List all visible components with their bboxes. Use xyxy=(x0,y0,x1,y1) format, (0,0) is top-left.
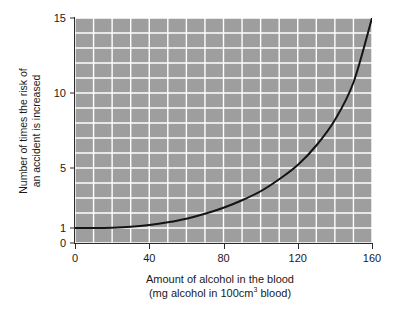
x-tick-mark xyxy=(372,244,373,249)
y-tick-label: 15 xyxy=(54,13,66,24)
x-tick-label: 120 xyxy=(289,252,307,264)
y-tick-label: 1 xyxy=(60,223,66,234)
y-tick-mark xyxy=(70,228,75,229)
y-tick-label: 0 xyxy=(60,238,66,249)
x-tick-mark xyxy=(149,244,150,249)
x-tick-label: 160 xyxy=(363,252,381,264)
risk-curve xyxy=(75,18,372,243)
risk-vs-alcohol-chart: Number of times the risk of an accident … xyxy=(0,0,397,317)
y-tick-mark xyxy=(70,93,75,94)
x-axis-title-line2-post: blood) xyxy=(257,287,291,299)
y-tick-mark xyxy=(70,18,75,19)
y-tick-mark xyxy=(70,168,75,169)
x-axis-title-line1: Amount of alcohol in the blood xyxy=(146,273,294,285)
y-axis-title-line1: Number of times the risk of xyxy=(17,68,29,193)
x-axis-title-line2-pre: (mg alcohol in 100cm xyxy=(149,287,254,299)
x-axis-title: Amount of alcohol in the blood (mg alcoh… xyxy=(60,272,380,300)
x-tick-label: 0 xyxy=(72,252,78,264)
x-tick-mark xyxy=(224,244,225,249)
x-tick-label: 80 xyxy=(217,252,229,264)
y-tick-label: 10 xyxy=(54,88,66,99)
x-axis-title-line2: (mg alcohol in 100cm3 blood) xyxy=(60,286,380,300)
x-tick-mark xyxy=(298,244,299,249)
y-axis-line xyxy=(74,17,75,244)
x-tick-mark xyxy=(75,244,76,249)
y-tick-label: 5 xyxy=(60,163,66,174)
plot-area xyxy=(75,18,372,243)
y-axis-title-line2: an accident is increased xyxy=(30,68,43,193)
y-axis-tick-labels: 0151015 xyxy=(44,0,70,262)
y-tick-mark xyxy=(70,243,75,244)
x-tick-label: 40 xyxy=(143,252,155,264)
